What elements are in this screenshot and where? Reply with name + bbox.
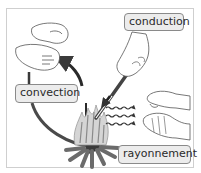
convection-label: convection bbox=[15, 84, 78, 103]
hand-holding-rod-icon bbox=[96, 32, 149, 118]
conduction-label: conduction bbox=[124, 13, 184, 31]
hands-beside-fire-icon bbox=[143, 91, 190, 140]
hands-above-fire-icon bbox=[16, 23, 68, 70]
campfire-icon bbox=[66, 105, 118, 167]
radiation-waves-icon bbox=[106, 107, 134, 125]
rayonnement-label: rayonnement bbox=[118, 145, 191, 164]
